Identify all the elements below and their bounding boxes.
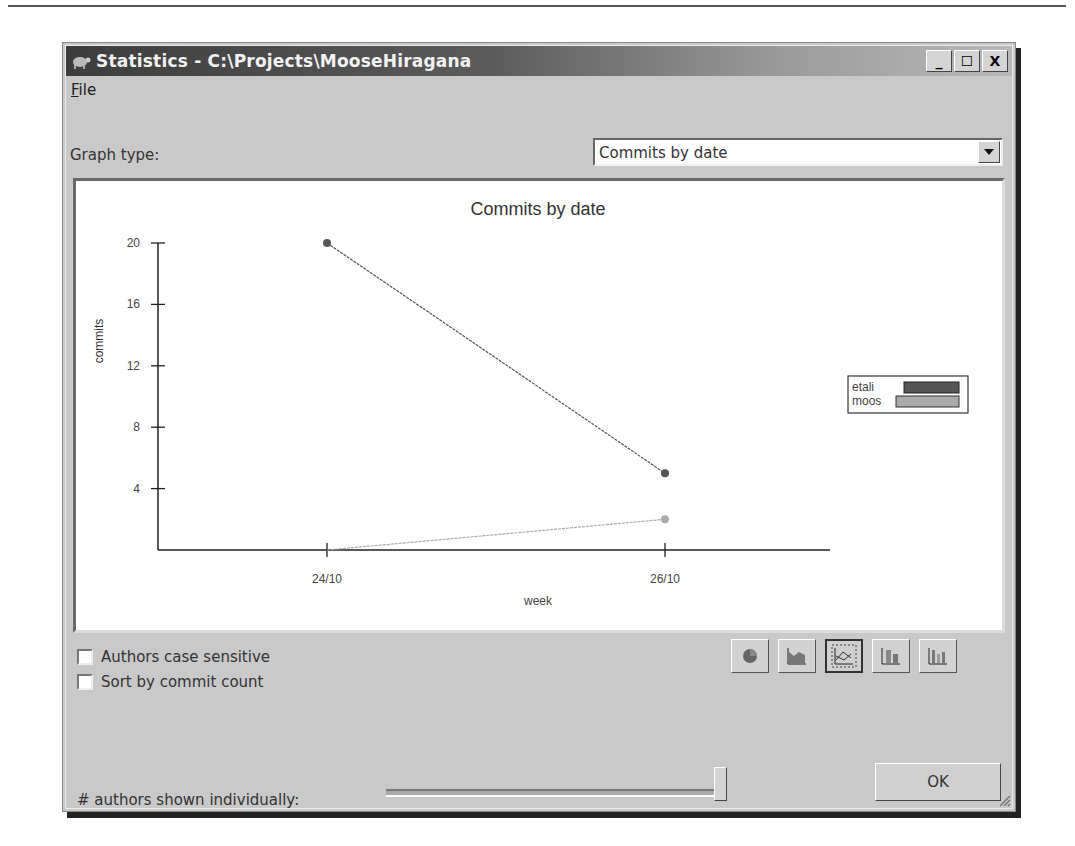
- window-title: Statistics - C:\Projects\MooseHiragana: [96, 51, 472, 71]
- graph-type-label: Graph type:: [70, 146, 159, 164]
- statistics-window: Statistics - C:\Projects\MooseHiragana _…: [62, 42, 1016, 812]
- minimize-button[interactable]: _: [926, 50, 952, 72]
- sort-by-commit-count-option[interactable]: Sort by commit count: [77, 673, 263, 691]
- line-chart: Commits by date 48121620 24/1026/10 week…: [76, 181, 1002, 630]
- y-tick-label: 8: [133, 420, 140, 434]
- chart-panel: Commits by date 48121620 24/1026/10 week…: [73, 178, 1005, 633]
- line-chart-button[interactable]: [825, 639, 863, 673]
- data-point-etali: [323, 239, 331, 247]
- y-ticks: 48121620: [127, 236, 165, 496]
- authors-case-sensitive-option[interactable]: Authors case sensitive: [77, 648, 270, 666]
- x-tick-label: 26/10: [650, 572, 680, 586]
- authors-case-sensitive-checkbox[interactable]: [77, 649, 93, 665]
- stacked-bar-chart-icon: [880, 646, 902, 666]
- ok-button[interactable]: OK: [875, 763, 1001, 801]
- window-controls: _ ☐ X: [926, 50, 1008, 72]
- data-point-etali: [661, 469, 669, 477]
- legend-label-moos: moos: [852, 394, 881, 408]
- maximize-icon: ☐: [961, 53, 974, 69]
- resize-grip-icon[interactable]: [997, 793, 1011, 807]
- title-bar[interactable]: Statistics - C:\Projects\MooseHiragana _…: [66, 46, 1012, 76]
- legend: etali moos: [848, 376, 968, 413]
- chart-type-toolbar: [731, 639, 957, 673]
- close-button[interactable]: X: [982, 50, 1008, 72]
- y-tick-label: 20: [127, 236, 141, 250]
- data-point-moos: [661, 515, 669, 523]
- maximize-button[interactable]: ☐: [954, 50, 980, 72]
- y-tick-label: 12: [127, 359, 141, 373]
- y-tick-label: 4: [133, 482, 140, 496]
- ok-label: OK: [927, 773, 949, 791]
- x-tick-label: 24/10: [312, 572, 342, 586]
- authors-shown-slider-track[interactable]: [386, 789, 726, 797]
- close-icon: X: [990, 53, 1001, 69]
- authors-shown-slider-thumb[interactable]: [714, 767, 727, 801]
- chart-title: Commits by date: [470, 199, 605, 219]
- bar-chart-button[interactable]: [919, 639, 957, 673]
- area-chart-icon: [786, 646, 808, 666]
- tortoise-app-icon: [70, 52, 92, 70]
- sort-by-commit-count-checkbox[interactable]: [77, 674, 93, 690]
- menu-file[interactable]: File: [69, 81, 98, 99]
- graph-type-dropdown[interactable]: Commits by date: [593, 138, 1003, 166]
- legend-swatch-etali: [904, 382, 959, 393]
- authors-shown-label: # authors shown individually:: [77, 791, 299, 809]
- page-top-rule: [8, 5, 826, 7]
- legend-swatch-moos: [896, 396, 959, 407]
- area-chart-button[interactable]: [778, 639, 816, 673]
- page-top-rule-right: [826, 5, 1066, 7]
- series-lines: [323, 239, 669, 550]
- pie-chart-button[interactable]: [731, 639, 769, 673]
- chevron-down-icon[interactable]: [978, 141, 1000, 163]
- stacked-bar-chart-button[interactable]: [872, 639, 910, 673]
- menu-bar: File: [69, 79, 98, 101]
- series-line-moos: [327, 519, 665, 550]
- sort-by-commit-count-label: Sort by commit count: [101, 673, 263, 691]
- line-chart-icon: [831, 644, 857, 668]
- pie-chart-icon: [740, 646, 760, 666]
- graph-type-value: Commits by date: [599, 144, 728, 162]
- minimize-icon: _: [936, 53, 943, 69]
- bar-chart-icon: [927, 646, 949, 666]
- authors-case-sensitive-label: Authors case sensitive: [101, 648, 270, 666]
- x-axis-label: week: [523, 594, 553, 608]
- legend-label-etali: etali: [852, 380, 874, 394]
- series-line-etali: [327, 243, 665, 473]
- y-axis-label: commits: [92, 319, 106, 364]
- y-tick-label: 16: [127, 297, 141, 311]
